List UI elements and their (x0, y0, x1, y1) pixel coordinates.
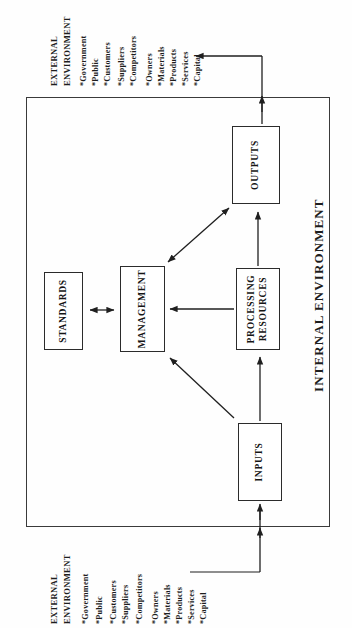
env-top-item-8: *Services (182, 51, 190, 86)
env-top-item-3: *Suppliers (118, 47, 126, 86)
env-top-item-0: *Government (80, 36, 88, 86)
env-bottom-item-1: *Public (96, 596, 104, 624)
node-management-label: MANAGEMENT (137, 270, 149, 349)
env-top-item-7: *Products (170, 49, 178, 86)
env-top-item-2: *Customers (104, 42, 112, 86)
env-bottom-item-4: *Competitors (136, 574, 144, 624)
node-processing-line1: PROCESSING (246, 275, 256, 344)
env-top-title-line1: EXTERNAL (50, 36, 59, 86)
env-bottom-item-0: *Government (82, 574, 90, 624)
env-top-item-4: *Competitors (130, 36, 138, 86)
env-bottom-item-2: *Customers (110, 580, 118, 624)
node-outputs-label: OUTPUTS (250, 140, 262, 190)
env-bottom-item-6: *Materials (164, 584, 172, 624)
node-processing-resources-label: PROCESSING RESOURCES (246, 275, 270, 344)
env-bottom-title-line1: EXTERNAL (50, 574, 59, 624)
env-top-title-line2: ENVIRONMENT (63, 16, 72, 86)
env-bottom-item-3: *Suppliers (122, 585, 130, 624)
node-management[interactable]: MANAGEMENT (120, 266, 165, 352)
node-processing-line2: RESOURCES (258, 277, 268, 341)
env-bottom-item-5: *Owners (152, 591, 160, 624)
node-standards[interactable]: STANDARDS (44, 272, 83, 350)
node-outputs[interactable]: OUTPUTS (232, 126, 280, 204)
node-standards-label: STANDARDS (58, 279, 70, 343)
env-bottom-item-7: *Products (176, 587, 184, 624)
internal-environment-label: INTERNAL ENVIRONMENT (312, 198, 325, 392)
env-top-item-5: *Owners (146, 53, 154, 86)
env-bottom-item-9: *Capital (200, 592, 208, 624)
diagram-canvas: INPUTS : elbow from label area up throug… (0, 0, 352, 628)
node-processing-resources[interactable]: PROCESSING RESOURCES (236, 268, 280, 350)
env-bottom-item-8: *Services (188, 589, 196, 624)
node-inputs-label: INPUTS (254, 442, 266, 481)
node-inputs[interactable]: INPUTS (238, 423, 282, 501)
env-top-item-9: *Capital (194, 54, 202, 86)
env-top-item-6: *Materials (158, 46, 166, 86)
env-bottom-title-line2: ENVIRONMENT (63, 554, 72, 624)
env-top-item-1: *Public (92, 58, 100, 86)
